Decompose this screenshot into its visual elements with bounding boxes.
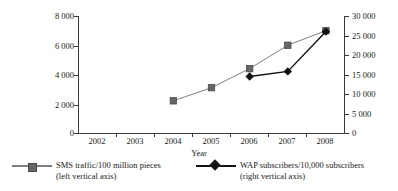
plot-area: 8 000 6 000 4 000 2 000 0 30 000 25 000 …: [0, 0, 398, 150]
square-marker-icon: [12, 161, 52, 171]
legend-item-sms[interactable]: SMS traffic/100 million pieces (left ver…: [12, 160, 161, 182]
data-point-square-2005: [208, 84, 214, 90]
data-point-square-2007: [285, 42, 291, 48]
data-point-diamond-2006: [245, 72, 253, 80]
legend-sublabel-sms: (left vertical axis): [56, 171, 161, 182]
data-point-square-2006: [246, 65, 252, 71]
legend-sublabel-wap: (right vertical axis): [240, 171, 364, 182]
chart-legend: SMS traffic/100 million pieces (left ver…: [0, 160, 398, 191]
legend-label-sms: SMS traffic/100 million pieces: [56, 160, 161, 171]
x-axis-title: Year: [0, 148, 398, 158]
data-point-square-2004: [170, 98, 176, 104]
chart-figure: 8 000 6 000 4 000 2 000 0 30 000 25 000 …: [0, 0, 398, 191]
series-plot: [0, 0, 398, 150]
legend-label-wap: WAP subscribers/10,000 subscribers: [240, 160, 364, 171]
diamond-marker-icon: [196, 161, 236, 171]
legend-item-wap[interactable]: WAP subscribers/10,000 subscribers (righ…: [196, 160, 364, 182]
